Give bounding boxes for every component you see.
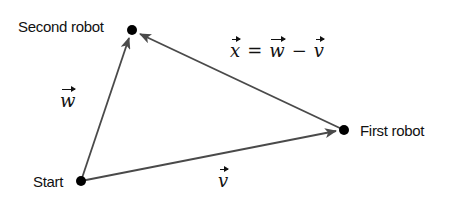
second-robot-point	[127, 25, 137, 35]
vector-v-label: v	[218, 170, 228, 191]
equation-w: w	[269, 40, 284, 61]
equation-x: x	[230, 40, 240, 61]
first-robot-label: First robot	[360, 122, 424, 139]
vector-v-arrow	[81, 131, 336, 181]
equation-v: v	[314, 40, 324, 61]
equation-label: x=w−v	[230, 40, 324, 61]
vector-w-arrow	[81, 38, 129, 181]
v-symbol: v	[218, 170, 228, 191]
start-point	[76, 176, 86, 186]
minus-sign: −	[292, 40, 307, 61]
second-robot-label: Second robot	[18, 18, 104, 35]
first-robot-point	[339, 125, 349, 135]
w-symbol: w	[60, 90, 75, 111]
vector-w-label: w	[60, 90, 75, 111]
equals-sign: =	[247, 40, 262, 61]
start-label: Start	[33, 173, 63, 190]
vector-diagram: Second robot Start First robot w v x=w−v	[0, 0, 465, 201]
